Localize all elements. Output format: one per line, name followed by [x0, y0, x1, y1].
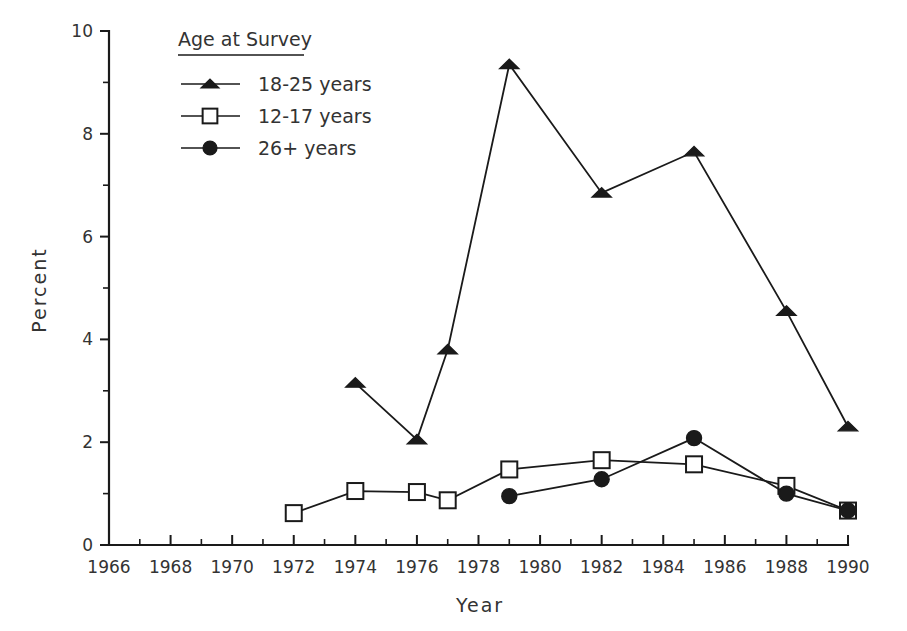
series-3 — [502, 431, 856, 518]
y-tick-label: 10 — [71, 21, 93, 41]
legend-entry-1[interactable]: 18-25 years — [181, 73, 372, 95]
series-line — [294, 460, 848, 513]
legend-entry-2[interactable]: 12-17 years — [181, 105, 372, 127]
marker-square-open — [686, 456, 702, 472]
marker-circle-filled — [594, 472, 609, 487]
x-axis-title: Year — [455, 594, 504, 616]
x-tick-label: 1972 — [272, 557, 315, 577]
marker-triangle-filled — [777, 306, 796, 315]
x-tick-label: 1970 — [211, 557, 254, 577]
marker-circle-filled — [687, 431, 702, 446]
line-chart-canvas: 0246810 19661968197019721974197619781980… — [0, 0, 907, 631]
marker-triangle-filled — [407, 434, 426, 443]
y-tick-label: 6 — [82, 227, 93, 247]
series-line — [355, 64, 848, 439]
x-tick-label: 1982 — [580, 557, 623, 577]
x-tick-label: 1988 — [765, 557, 808, 577]
marker-circle-filled — [841, 503, 856, 518]
marker-triangle-filled — [685, 147, 704, 156]
marker-square-open — [594, 452, 610, 468]
x-tick-label: 1986 — [703, 557, 746, 577]
marker-square-open — [409, 484, 425, 500]
legend-entry-3[interactable]: 26+ years — [181, 137, 356, 159]
y-tick-label: 8 — [82, 124, 93, 144]
marker-triangle-filled — [839, 422, 858, 431]
marker-square-open — [501, 461, 517, 477]
x-tick-label: 1974 — [334, 557, 377, 577]
marker-circle-filled — [203, 141, 217, 155]
marker-triangle-filled — [500, 59, 519, 68]
series-2 — [286, 452, 856, 521]
marker-square-open — [203, 109, 218, 124]
marker-square-open — [440, 492, 456, 508]
data-series-group — [286, 59, 858, 521]
x-tick-label: 1980 — [518, 557, 561, 577]
x-axis-tick-labels: 1966196819701972197419761978198019821984… — [87, 557, 869, 577]
chart-legend: Age at Survey18-25 years12-17 years26+ y… — [178, 28, 372, 159]
legend-entry-label: 18-25 years — [258, 73, 372, 95]
y-tick-label: 4 — [82, 329, 93, 349]
marker-square-open — [286, 505, 302, 521]
y-tick-label: 2 — [82, 432, 93, 452]
x-axis-ticks — [109, 535, 848, 545]
legend-entry-label: 12-17 years — [258, 105, 372, 127]
x-tick-label: 1984 — [642, 557, 685, 577]
y-axis-title: Percent — [28, 247, 50, 333]
legend-entry-label: 26+ years — [258, 137, 356, 159]
x-tick-label: 1966 — [87, 557, 130, 577]
series-1 — [346, 59, 858, 444]
x-tick-label: 1978 — [457, 557, 500, 577]
marker-circle-filled — [779, 486, 794, 501]
marker-circle-filled — [502, 489, 517, 504]
axes-group: 0246810 19661968197019721974197619781980… — [71, 21, 869, 577]
marker-triangle-filled — [438, 344, 457, 353]
x-tick-label: 1990 — [826, 557, 869, 577]
x-tick-label: 1976 — [395, 557, 438, 577]
marker-square-open — [347, 483, 363, 499]
y-tick-label: 0 — [82, 535, 93, 555]
legend-title: Age at Survey — [178, 28, 312, 50]
y-axis-ticks — [100, 31, 109, 545]
x-tick-label: 1968 — [149, 557, 192, 577]
chart-figure: 0246810 19661968197019721974197619781980… — [0, 0, 907, 631]
y-axis-tick-labels: 0246810 — [71, 21, 93, 555]
marker-triangle-filled — [346, 378, 365, 387]
series-line — [509, 438, 848, 510]
